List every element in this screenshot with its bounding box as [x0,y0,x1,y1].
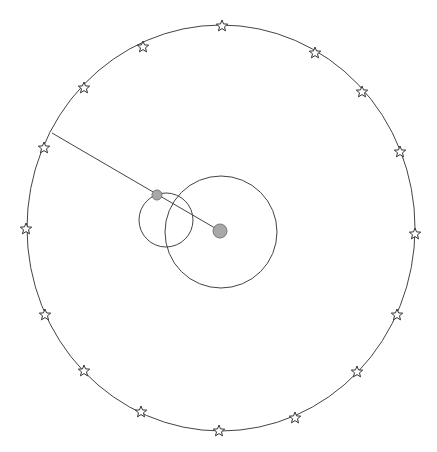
star-icon [216,20,227,31]
star-icon [20,223,31,234]
diagram-canvas [0,0,437,452]
center-ball [213,224,227,238]
star-icon [391,309,402,320]
star-icon [39,309,50,320]
star-icon [137,41,148,52]
star-icon [78,365,89,376]
star-icon [356,86,367,97]
star-icon [78,82,89,93]
star-icon [351,366,362,377]
orbiting-ball [152,190,162,200]
star-icon [38,142,49,153]
star-icon [394,146,405,157]
star-icon [213,425,224,436]
orbital-diagram [0,0,437,452]
